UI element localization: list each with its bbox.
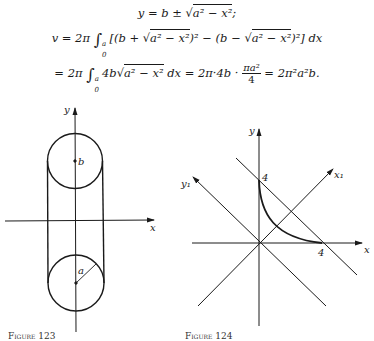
right-y-label: y <box>248 125 255 136</box>
figure-right-caption: Figure 124 <box>185 331 232 341</box>
center-dot-bottom <box>75 282 77 284</box>
x1-axis <box>198 169 333 306</box>
figure-right-rotation <box>192 129 362 326</box>
right-x-label: x <box>364 244 370 255</box>
left-tangent-line <box>48 161 49 283</box>
right-y-intercept-label: 4 <box>261 172 268 183</box>
left-a-label: a <box>78 265 84 276</box>
left-y-label: y <box>63 104 70 115</box>
x-axis <box>5 220 154 221</box>
right-x-intercept-label: 4 <box>317 247 324 258</box>
right-tangent-line <box>103 161 105 283</box>
y-axis <box>75 108 76 332</box>
right-x1-label: x₁ <box>334 169 344 180</box>
right-y1-label: y₁ <box>180 178 191 189</box>
figure-left-caption: Figure 123 <box>8 331 55 341</box>
figure-left-torus <box>5 108 154 332</box>
center-dot-top <box>74 160 76 162</box>
left-b-label: b <box>78 156 84 167</box>
left-x-label: x <box>150 222 156 233</box>
